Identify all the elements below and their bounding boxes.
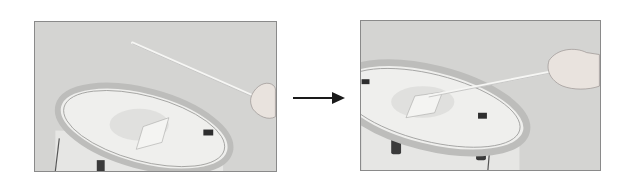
arrow-right-icon — [292, 90, 346, 106]
drum-stick-above-illustration — [35, 22, 276, 171]
photo-before-strike — [34, 21, 277, 172]
drum-stick-pressing-illustration — [361, 21, 600, 170]
photo-after-strike — [360, 20, 601, 171]
